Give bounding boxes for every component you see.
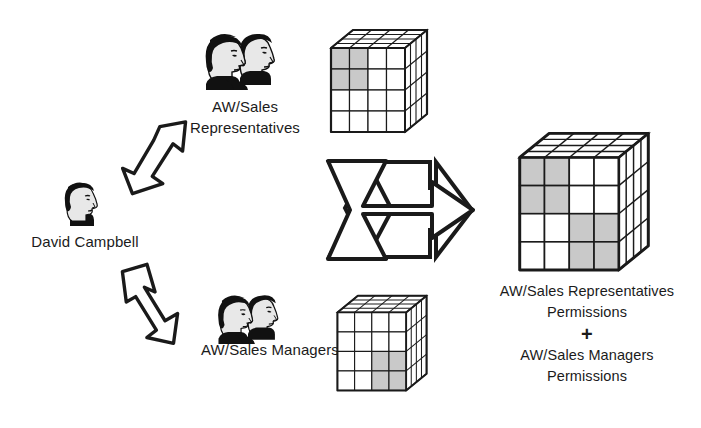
- group-label-representatives-line1: AW/Sales: [130, 96, 360, 117]
- result-label-line2: Permissions: [472, 302, 701, 323]
- permissions-inheritance-diagram: David Campbell: [0, 0, 701, 428]
- managers-permissions-cube: [330, 292, 434, 396]
- result-label: AW/Sales Representatives Permissions + A…: [472, 281, 701, 387]
- group-label-representatives-line2: Representatives: [130, 117, 360, 138]
- result-label-line3: AW/Sales Managers: [472, 345, 701, 366]
- two-people-icon: [196, 22, 284, 98]
- combined-permissions-cube: [505, 128, 663, 278]
- group-label-representatives: AW/Sales Representatives: [130, 96, 360, 138]
- arrow-down-right-icon: [100, 262, 210, 352]
- representatives-permissions-cube: [327, 26, 431, 138]
- plus-sign: +: [472, 323, 701, 345]
- user-name-label: David Campbell: [10, 232, 160, 251]
- result-label-line4: Permissions: [472, 366, 701, 387]
- single-person-icon: [52, 176, 110, 234]
- result-label-line1: AW/Sales Representatives: [472, 281, 701, 302]
- chevron-tail-arrow-right-icon: [323, 156, 478, 264]
